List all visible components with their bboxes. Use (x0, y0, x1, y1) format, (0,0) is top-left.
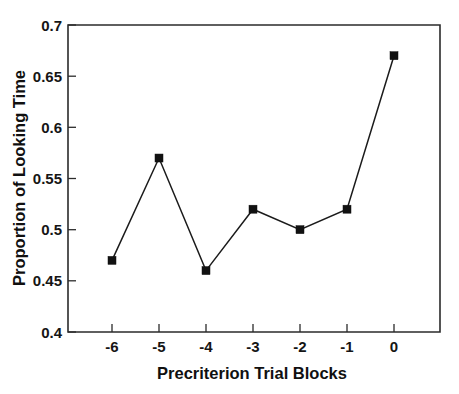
x-tick-label: 0 (390, 338, 398, 355)
x-tick-label: -2 (293, 338, 306, 355)
x-tick-label: -3 (246, 338, 259, 355)
x-tick-label: -5 (152, 338, 165, 355)
data-point (108, 256, 116, 264)
data-point (249, 205, 257, 213)
y-tick-label: 0.7 (41, 17, 62, 34)
x-tick-label: -4 (199, 338, 213, 355)
y-tick-label: 0.65 (33, 68, 62, 85)
data-point (155, 154, 163, 162)
line-chart: 0.4 0.45 0.5 0.55 0.6 0.65 0.7 -6 -5 -4 … (0, 0, 459, 394)
data-point (343, 205, 351, 213)
x-axis-title: Precriterion Trial Blocks (157, 364, 347, 382)
data-point (296, 226, 304, 234)
y-tick-label: 0.5 (41, 221, 62, 238)
y-axis-title: Proportion of Looking Time (10, 70, 28, 286)
y-tick-label: 0.6 (41, 119, 62, 136)
data-point (202, 267, 210, 275)
y-tick-label: 0.45 (33, 272, 62, 289)
y-tick-label: 0.55 (33, 170, 62, 187)
chart-figure: 0.4 0.45 0.5 0.55 0.6 0.65 0.7 -6 -5 -4 … (0, 0, 459, 394)
y-tick-label: 0.4 (41, 324, 63, 341)
x-tick-label: -1 (340, 338, 353, 355)
x-tick-label: -6 (105, 338, 118, 355)
data-point (390, 52, 398, 60)
